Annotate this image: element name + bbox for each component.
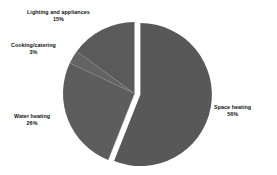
pie-chart-canvas <box>0 0 277 175</box>
pie-label-water-heating-percent: 26% <box>14 120 50 127</box>
pie-label-cooking-catering-text: Cooking/catering <box>11 42 56 48</box>
pie-label-cooking-catering-percent: 3% <box>11 49 56 56</box>
pie-label-cooking-catering: Cooking/catering 3% <box>11 42 56 55</box>
pie-label-space-heating-text: Space heating <box>214 104 251 110</box>
pie-label-lighting-and-appliances-text: Lighting and appliances <box>27 9 90 15</box>
pie-chart-figure: Lighting and appliances 15% Cooking/cate… <box>0 0 277 175</box>
pie-label-lighting-and-appliances: Lighting and appliances 15% <box>27 9 90 22</box>
pie-label-space-heating: Space heating 56% <box>214 104 251 117</box>
pie-label-water-heating: Water heating 26% <box>14 113 50 126</box>
pie-label-lighting-and-appliances-percent: 15% <box>27 16 90 23</box>
pie-slices-group <box>63 22 212 166</box>
pie-label-water-heating-text: Water heating <box>14 113 50 119</box>
pie-label-space-heating-percent: 56% <box>214 111 251 118</box>
